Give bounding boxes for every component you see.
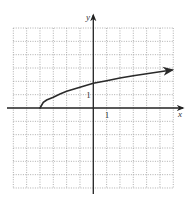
axes	[7, 15, 183, 194]
y-tick-label-1: 1	[86, 90, 91, 100]
x-axis-label: x	[177, 109, 182, 119]
x-tick-label-1: 1	[105, 110, 110, 120]
curve-series	[40, 70, 172, 108]
function-curve	[40, 70, 172, 108]
y-axis-label: y	[85, 12, 90, 22]
function-graph: x y 1 1	[0, 0, 192, 202]
graph-canvas: x y 1 1	[0, 0, 192, 202]
